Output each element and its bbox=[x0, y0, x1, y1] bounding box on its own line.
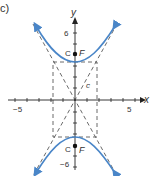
label-c-box: c bbox=[86, 81, 90, 90]
tick-label-y-6: 6 bbox=[64, 29, 69, 38]
tick-label-x-neg5: −5 bbox=[13, 105, 23, 114]
hyperbola-lower-branch bbox=[36, 137, 115, 173]
y-axis-arrow-icon bbox=[72, 17, 78, 24]
label-c-top: C bbox=[65, 49, 71, 58]
label-c-bottom: C bbox=[65, 145, 71, 154]
label-f-bottom: F bbox=[79, 145, 85, 155]
y-axis-label: y bbox=[70, 7, 77, 18]
focus-upper bbox=[73, 52, 77, 56]
hyperbola-figure: c) bbox=[0, 0, 150, 176]
tick-label-x-5: 5 bbox=[127, 105, 132, 114]
label-f-top: F bbox=[79, 48, 85, 58]
focus-lower bbox=[73, 144, 77, 148]
tick-label-y-neg6: −6 bbox=[60, 160, 70, 169]
hyperbola-plot: y x −5 5 6 −6 C F c C F bbox=[0, 0, 150, 176]
x-axis-label: x bbox=[143, 94, 150, 105]
